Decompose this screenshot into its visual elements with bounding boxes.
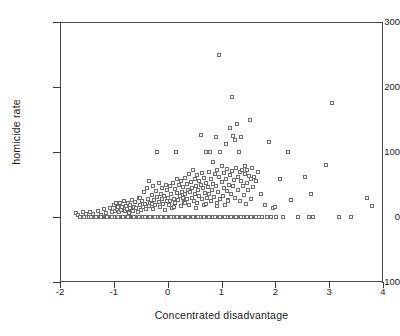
data-point bbox=[110, 215, 114, 219]
data-point bbox=[226, 199, 230, 203]
data-point bbox=[116, 215, 120, 219]
data-point bbox=[164, 215, 168, 219]
data-point bbox=[235, 122, 239, 126]
data-point bbox=[224, 142, 228, 146]
data-point bbox=[194, 184, 198, 188]
x-axis-title: Concentrated disadvantage bbox=[60, 309, 383, 321]
data-point bbox=[194, 206, 198, 210]
data-point bbox=[94, 215, 98, 219]
data-point bbox=[159, 215, 163, 219]
data-point bbox=[223, 215, 227, 219]
data-point bbox=[229, 215, 233, 219]
data-point bbox=[254, 215, 258, 219]
data-point bbox=[174, 150, 178, 154]
data-point bbox=[218, 215, 222, 219]
x-tick-label: 1 bbox=[207, 287, 237, 297]
data-point bbox=[239, 135, 243, 139]
data-point bbox=[281, 215, 285, 219]
data-point bbox=[99, 215, 103, 219]
data-point bbox=[260, 215, 264, 219]
data-point bbox=[286, 150, 290, 154]
data-point bbox=[187, 172, 191, 176]
data-point bbox=[183, 201, 187, 205]
data-point bbox=[239, 179, 243, 183]
y-tick-label: -100 bbox=[348, 277, 400, 287]
data-point bbox=[118, 201, 122, 205]
data-point bbox=[213, 172, 217, 176]
data-point bbox=[132, 215, 136, 219]
data-point bbox=[187, 203, 191, 207]
data-point bbox=[221, 194, 225, 198]
data-point bbox=[220, 164, 224, 168]
data-point bbox=[169, 215, 173, 219]
data-point bbox=[263, 203, 267, 207]
data-point bbox=[121, 215, 125, 219]
data-point bbox=[311, 215, 315, 219]
data-point bbox=[370, 204, 374, 208]
data-point bbox=[211, 160, 215, 164]
data-point bbox=[238, 199, 242, 203]
data-point bbox=[175, 215, 179, 219]
scatter-plot-figure: -1000100200300 -2-101234 Concentrated di… bbox=[0, 0, 400, 336]
data-point bbox=[244, 202, 248, 206]
data-point bbox=[236, 188, 240, 192]
data-point bbox=[228, 126, 232, 130]
data-point bbox=[365, 196, 369, 200]
data-point bbox=[168, 184, 172, 188]
y-axis-title: homicide rate bbox=[10, 72, 22, 192]
data-point bbox=[180, 215, 184, 219]
data-point bbox=[209, 177, 213, 181]
data-point bbox=[215, 168, 219, 172]
data-point bbox=[254, 179, 258, 183]
data-point bbox=[200, 197, 204, 201]
data-point bbox=[309, 192, 313, 196]
y-tick-label: 100 bbox=[348, 147, 400, 157]
data-point bbox=[251, 185, 255, 189]
x-tick-label: -2 bbox=[45, 287, 75, 297]
data-point bbox=[237, 150, 241, 154]
data-point bbox=[269, 215, 273, 219]
y-tick bbox=[53, 87, 61, 88]
y-tick-label: 300 bbox=[348, 17, 400, 27]
data-point bbox=[207, 170, 211, 174]
data-point bbox=[200, 171, 204, 175]
data-point bbox=[176, 198, 180, 202]
data-point bbox=[172, 205, 176, 209]
data-point bbox=[223, 203, 227, 207]
data-point bbox=[196, 188, 200, 192]
data-point bbox=[296, 215, 300, 219]
data-point bbox=[250, 166, 254, 170]
data-point bbox=[278, 177, 282, 181]
data-point bbox=[249, 215, 253, 219]
data-point bbox=[208, 150, 212, 154]
data-point bbox=[199, 133, 203, 137]
data-point bbox=[191, 168, 195, 172]
x-tick-label: 3 bbox=[314, 287, 344, 297]
data-point bbox=[153, 215, 157, 219]
data-point bbox=[236, 175, 240, 179]
data-point bbox=[245, 181, 249, 185]
data-point bbox=[155, 150, 159, 154]
data-point bbox=[207, 192, 211, 196]
data-point bbox=[138, 196, 142, 200]
data-point bbox=[220, 180, 224, 184]
data-point bbox=[225, 167, 229, 171]
data-point bbox=[337, 215, 341, 219]
data-point bbox=[150, 193, 154, 197]
data-point bbox=[248, 118, 252, 122]
data-point bbox=[213, 215, 217, 219]
data-point bbox=[202, 215, 206, 219]
data-point bbox=[160, 197, 164, 201]
data-point bbox=[196, 215, 200, 219]
x-tick-label: 0 bbox=[153, 287, 183, 297]
data-point bbox=[105, 215, 109, 219]
data-point bbox=[160, 186, 164, 190]
data-point bbox=[215, 204, 219, 208]
data-point bbox=[151, 184, 155, 188]
data-point bbox=[245, 215, 249, 219]
data-point bbox=[202, 176, 206, 180]
data-point bbox=[234, 215, 238, 219]
x-tick-label: 2 bbox=[260, 287, 290, 297]
data-point bbox=[154, 189, 158, 193]
data-point bbox=[163, 208, 167, 212]
